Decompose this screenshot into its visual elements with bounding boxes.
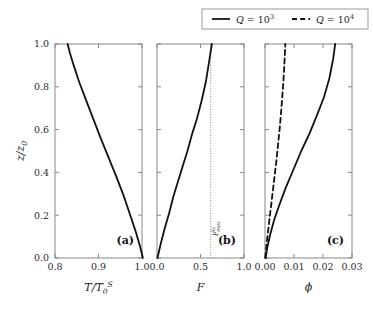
scientific-figure: Q = 103Q = 104 z/z0 0.80.91.00.00.20.40.… [0, 0, 373, 315]
y-axis-title-main: z/z [14, 146, 27, 163]
x-tick-label: 0.8 [47, 261, 62, 272]
legend-var: Q [236, 14, 244, 25]
figure-container: Q = 103Q = 104 z/z0 0.80.91.00.00.20.40.… [0, 0, 373, 315]
annot-sub: max [215, 221, 221, 232]
legend-eq: = [324, 14, 338, 25]
legend-base: 10 [338, 14, 350, 25]
legend-base: 10 [258, 14, 270, 25]
legend-label-2: Q = 104 [316, 13, 354, 25]
x-tick-label: 0.00 [254, 261, 275, 272]
x-axis-title: ϕ [305, 281, 313, 294]
y-tick-label: 0.0 [34, 252, 49, 263]
x-tick-label: 0.01 [283, 261, 304, 272]
x-axis-title: F [196, 281, 205, 294]
x-tick-label: 0.0 [149, 261, 164, 272]
x-tick-label: 0.5 [193, 261, 208, 272]
y-tick-label: 0.6 [34, 124, 49, 135]
y-tick-label: 1.0 [34, 38, 49, 49]
y-tick-label: 0.2 [34, 210, 49, 221]
x-axis-title-sup: S [108, 280, 113, 289]
panel-tag: (a) [116, 234, 134, 247]
y-tick-label: 0.8 [34, 81, 49, 92]
x-tick-label: 0.9 [91, 261, 106, 272]
x-axis-title-main: F [196, 281, 205, 294]
x-tick-label: 1.0 [134, 261, 149, 272]
y-tick-label: 0.4 [34, 167, 49, 178]
x-tick-label: 1.0 [236, 261, 251, 272]
y-axis-title-sub: 0 [20, 141, 29, 146]
x-axis-title-main: T/T [84, 281, 104, 294]
legend-exponent: 4 [350, 13, 354, 21]
legend: Q = 103Q = 104 [202, 9, 368, 29]
x-axis-title-main: ϕ [305, 281, 313, 294]
legend-eq: = [244, 14, 258, 25]
legend-label-1: Q = 103 [236, 13, 274, 25]
panel-tag: (c) [327, 234, 344, 247]
legend-var: Q [316, 14, 324, 25]
panel-tag: (b) [218, 234, 236, 247]
x-tick-label: 0.02 [312, 261, 333, 272]
legend-exponent: 3 [270, 13, 274, 21]
x-tick-label: 0.03 [341, 261, 362, 272]
